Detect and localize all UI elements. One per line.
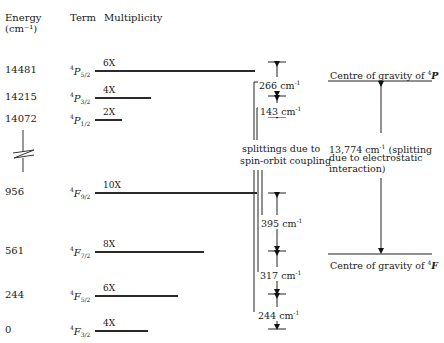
spin-orbit-note-line1: splittings due to	[242, 143, 320, 154]
splitting-label: 266 cm-1	[258, 77, 301, 91]
splitting-label: 244 cm-1	[257, 307, 300, 321]
splitting-label: 317 cm-1	[259, 267, 302, 281]
spin-orbit-note-line2: spin-orbit coupling	[240, 155, 331, 166]
splitting-label: 395 cm-1	[260, 215, 303, 229]
centre-of-gravity-F-label: Centre of gravity of 4F	[330, 257, 438, 271]
electrostatic-note-line2: due to electrostatic	[329, 152, 423, 163]
electrostatic-note-line3: interaction)	[329, 163, 386, 174]
splitting-label: 143 cm-1	[259, 103, 302, 117]
centre-of-gravity-P-label: Centre of gravity of 4P	[330, 67, 438, 81]
